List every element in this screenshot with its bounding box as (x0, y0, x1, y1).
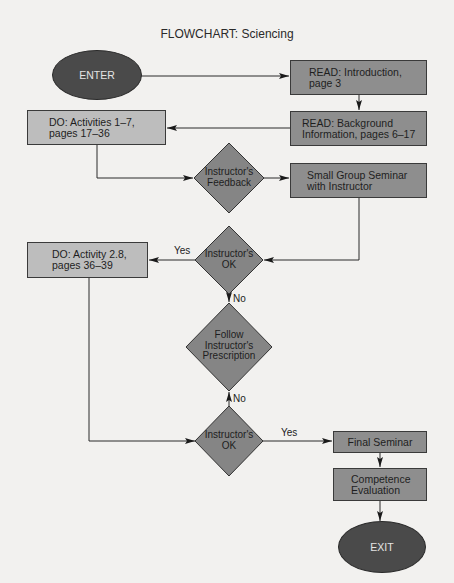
read-background-label: READ: Background Information, pages 6–17 (302, 118, 415, 140)
do-activities-box: DO: Activities 1–7, pages 17–36 (27, 110, 166, 145)
decision-ok2-label: Instructor's OK (195, 430, 263, 451)
ok1-yes-label: Yes (174, 245, 190, 256)
do-activities-label: DO: Activities 1–7, pages 17–36 (49, 117, 135, 139)
competence-evaluation-box: Competence Evaluation (333, 468, 427, 501)
small-group-seminar-box: Small Group Seminar with Instructor (290, 163, 427, 198)
decision-ok1-label: Instructor's OK (195, 249, 263, 270)
edge-activity28-ok2 (89, 277, 195, 441)
exit-label: EXIT (370, 541, 393, 553)
read-introduction-box: READ: Introduction, page 3 (290, 60, 427, 95)
decision-feedback-label: Instructor's Feedback (194, 167, 264, 188)
follow-no-label: No (233, 393, 246, 404)
edge-activities-feedback (97, 145, 193, 178)
do-activity-28-box: DO: Activity 2.8, pages 36–39 (27, 242, 148, 278)
read-introduction-label: READ: Introduction, page 3 (309, 67, 402, 89)
ok1-no-label: No (233, 293, 246, 304)
final-seminar-box: Final Seminar (333, 431, 427, 453)
do-activity-28-label: DO: Activity 2.8, pages 36–39 (52, 249, 127, 271)
final-seminar-label: Final Seminar (348, 437, 413, 448)
read-background-box: READ: Background Information, pages 6–17 (290, 111, 427, 146)
ok2-yes-label: Yes (281, 427, 297, 438)
edge-smallgroup-ok1 (264, 197, 359, 260)
enter-label: ENTER (79, 69, 115, 81)
exit-terminal: EXIT (338, 521, 426, 573)
competence-evaluation-label: Competence Evaluation (351, 474, 411, 496)
decision-follow-label: Follow Instructor's Prescription (186, 330, 272, 362)
enter-terminal: ENTER (52, 50, 142, 100)
small-group-seminar-label: Small Group Seminar with Instructor (307, 170, 407, 192)
